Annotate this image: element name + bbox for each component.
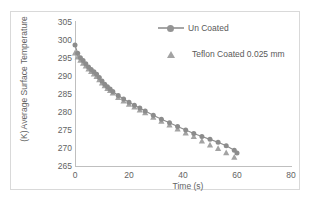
data-point-uncoated: [121, 97, 126, 102]
x-tick-label-80: 80: [279, 170, 303, 180]
y-tick-label-290: 290: [46, 72, 72, 81]
x-axis-line: [75, 166, 292, 167]
data-point-uncoated: [175, 124, 180, 129]
y-tick-label-285: 285: [46, 90, 72, 99]
data-point-uncoated: [235, 151, 240, 156]
legend-label-teflon: Teflon Coated 0.025 mm: [184, 49, 285, 59]
data-point-uncoated: [127, 100, 132, 105]
data-point-uncoated: [137, 106, 142, 111]
x-axis-title-text: Time (s): [173, 181, 204, 191]
x-tick-label-20: 20: [117, 170, 141, 180]
data-point-uncoated: [216, 140, 221, 145]
data-point-uncoated: [183, 128, 188, 133]
data-point-uncoated: [151, 113, 156, 118]
data-point-uncoated: [73, 43, 78, 48]
y-tick-label-295: 295: [46, 54, 72, 63]
chart-legend: Un Coated Teflon Coated 0.025 mm: [158, 22, 293, 74]
data-point-uncoated: [143, 108, 148, 113]
data-point-uncoated: [75, 51, 80, 56]
x-tick-label-60: 60: [225, 170, 249, 180]
data-point-uncoated: [208, 137, 213, 142]
data-point-teflon: [215, 145, 221, 151]
y-tick-label-300: 300: [46, 36, 72, 45]
chart-figure: Average Surface Temperature (K) 305 300 …: [0, 0, 314, 204]
x-axis-title: Time (s): [0, 181, 314, 191]
data-point-uncoated: [224, 143, 229, 148]
data-point-uncoated: [159, 117, 164, 122]
data-point-uncoated: [110, 89, 115, 94]
data-point-teflon: [223, 150, 229, 156]
legend-item-teflon[interactable]: Teflon Coated 0.025 mm: [158, 48, 293, 60]
data-point-uncoated: [116, 93, 121, 98]
y-tick-label-275: 275: [46, 126, 72, 135]
data-point-uncoated: [132, 103, 137, 108]
data-point-teflon: [207, 142, 213, 148]
data-point-uncoated: [199, 134, 204, 139]
legend-label-uncoated: Un Coated: [184, 23, 229, 33]
y-tick-label-270: 270: [46, 144, 72, 153]
legend-line-circle-marker-icon: [158, 22, 184, 34]
data-point-uncoated: [191, 131, 196, 136]
data-point-uncoated: [167, 120, 172, 125]
x-tick-label-0: 0: [63, 170, 87, 180]
y-tick-label-280: 280: [46, 108, 72, 117]
x-tick-label-40: 40: [171, 170, 195, 180]
y-tick-label-305: 305: [46, 18, 72, 27]
legend-triangle-marker-icon: [158, 48, 184, 60]
legend-item-uncoated[interactable]: Un Coated: [158, 22, 293, 34]
